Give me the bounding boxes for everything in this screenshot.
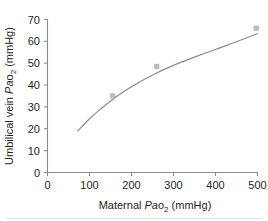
x-tick-label: 500 (248, 179, 266, 191)
y-tick-label: 40 (28, 79, 40, 91)
y-tick-label: 70 (28, 14, 40, 26)
y-tick-label: 30 (28, 101, 40, 113)
y-tick-label: 60 (28, 35, 40, 47)
y-tick-label: 10 (28, 145, 40, 157)
data-point-marker (154, 64, 159, 69)
x-tick-label: 200 (122, 179, 140, 191)
y-tick-label: 20 (28, 123, 40, 135)
y-tick-label: 0 (34, 167, 40, 179)
data-point-marker (110, 94, 115, 99)
x-tick-label: 0 (44, 179, 50, 191)
y-tick-label: 50 (28, 57, 40, 69)
data-point-marker (254, 26, 259, 31)
x-tick-label: 100 (80, 179, 98, 191)
chart-figure: Umbilical vein Pao2 (mmHg) Maternal Pao2… (0, 0, 268, 221)
x-tick-label: 400 (206, 179, 224, 191)
oxygen-transfer-scatter-chart: Umbilical vein Pao2 (mmHg) Maternal Pao2… (0, 0, 268, 221)
x-tick-label: 300 (164, 179, 182, 191)
